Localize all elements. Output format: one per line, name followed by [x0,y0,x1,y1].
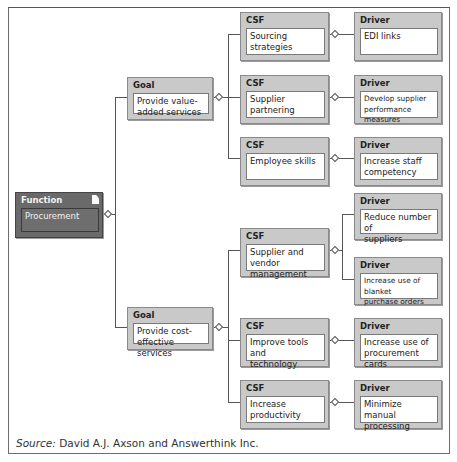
label-line: Supplier and vendor [250,247,321,269]
node-label: Procurement [21,208,99,232]
node-header: Driver [355,258,441,271]
node-label: Increase use of procurement cards [360,334,438,361]
csf-node[interactable]: CSF Improve tools and technology [240,318,329,367]
label-line: Improve tools and [250,337,321,359]
function-node[interactable]: Function Procurement [15,192,103,238]
label-line: Provide cost- [137,326,205,337]
driver-node[interactable]: Driver Increase use of procurement cards [354,318,442,367]
label-line: procurement cards [364,348,434,370]
driver-node[interactable]: Driver Increase staff competency [354,137,442,186]
node-label: Develop supplier performance measures [360,91,438,118]
node-header: CSF [241,76,328,89]
driver-node[interactable]: Driver EDI links [354,12,442,61]
node-header: Driver [355,138,441,151]
node-label: Reduce number of suppliers [360,209,438,234]
csf-node[interactable]: CSF Supplier partnering [240,75,329,124]
node-label: Employee skills [246,153,325,180]
node-header: CSF [241,229,328,242]
label-line: performance measures [364,105,434,126]
label-line: Provide value- [137,96,205,107]
connector [228,34,229,158]
node-header: Driver [355,319,441,332]
label-line: Increase staff [364,156,434,167]
connector [342,214,354,215]
node-header: Goal [128,308,212,321]
node-header: CSF [241,138,328,151]
label-line: management [250,269,321,280]
label-line: Increase use of [364,337,434,348]
driver-node[interactable]: Driver Develop supplier performance meas… [354,75,442,124]
connector [342,214,343,279]
node-header: Goal [128,78,212,91]
node-label: EDI links [360,28,438,55]
connector [228,158,240,159]
node-header: CSF [241,319,328,332]
goal-node[interactable]: Goal Provide value- added services [127,77,213,120]
label-line: technology [250,359,321,370]
label-line: competency [364,167,434,178]
connector [228,34,240,35]
csf-node[interactable]: CSF Increase productivity [240,380,329,429]
source-label: Source: [16,437,56,449]
label-line: effective services [137,337,205,359]
label-line: processing [364,421,434,432]
connector [228,340,240,341]
node-header: CSF [241,13,328,26]
node-label: Minimize manual processing [360,396,438,423]
node-header: Driver [355,13,441,26]
connector [228,250,229,403]
node-header: Driver [355,76,441,89]
node-label: Increase use of blanket purchase orders [360,273,438,299]
connector [115,97,127,98]
node-header: Driver [355,381,441,394]
source-caption: Source: David A.J. Axson and Answerthink… [16,437,259,449]
csf-node[interactable]: CSF Sourcing strategies [240,12,329,61]
label-line: Increase use of blanket [364,276,434,297]
driver-node[interactable]: Driver Minimize manual processing [354,380,442,429]
connector [228,402,240,403]
label-line: suppliers [364,234,434,245]
node-header: Function [16,193,102,206]
node-label: Increase productivity [246,396,325,423]
label-line: Reduce number of [364,212,434,234]
label-line: purchase orders [364,297,434,308]
csf-node[interactable]: CSF Employee skills [240,137,329,186]
label-line: Minimize manual [364,399,434,421]
csf-node[interactable]: CSF Supplier and vendor management [240,228,329,277]
node-header: Driver [355,194,441,207]
node-label: Increase staff competency [360,153,438,180]
label-line: Increase [250,399,321,410]
connector [228,250,240,251]
goal-node[interactable]: Goal Provide cost- effective services [127,307,213,350]
connector [342,279,354,280]
label-line: added services [137,107,205,118]
source-text: David A.J. Axson and Answerthink Inc. [56,437,259,449]
node-header: CSF [241,381,328,394]
connector [228,97,240,98]
connector [115,327,127,328]
label-line: Develop supplier [364,94,434,105]
node-label: Provide value- added services [133,93,209,114]
node-label: Supplier and vendor management [246,244,325,271]
node-label: Supplier partnering [246,91,325,118]
node-label: Improve tools and technology [246,334,325,361]
node-label: Sourcing strategies [246,28,325,55]
connector [115,97,116,328]
label-line: productivity [250,410,321,421]
driver-node[interactable]: Driver Reduce number of suppliers [354,193,442,240]
driver-node[interactable]: Driver Increase use of blanket purchase … [354,257,442,305]
node-label: Provide cost- effective services [133,323,209,344]
